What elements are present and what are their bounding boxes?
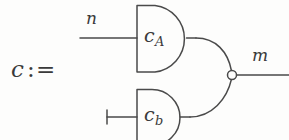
gate-a-label-subscript: A: [155, 34, 164, 49]
gate-b-label-base: c: [144, 103, 155, 125]
circuit-figure: c:= n m cA cb: [0, 0, 289, 140]
inverter-bubble-icon: [228, 71, 237, 80]
gate-b-label-subscript: b: [155, 113, 163, 128]
wire-gate-b-to-junction: [190, 79, 232, 117]
definition-label: c:=: [11, 58, 56, 81]
definition-lhs: c: [11, 56, 25, 82]
gate-b-label: cb: [144, 105, 163, 128]
output-label-m: m: [252, 47, 268, 64]
definition-operator: :=: [27, 56, 56, 82]
wire-gate-a-to-junction: [196, 38, 232, 71]
gate-a-label: cA: [144, 26, 164, 49]
input-label-n: n: [86, 10, 97, 27]
gate-a-label-base: c: [144, 24, 155, 46]
